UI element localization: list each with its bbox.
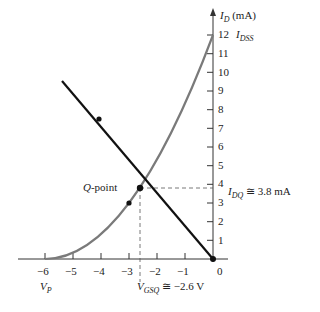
- y-tick-8: 8: [218, 104, 224, 115]
- idss-label: IDSS: [236, 29, 253, 43]
- qpoint-label: Q-point: [83, 182, 117, 193]
- y-tick-5: 5: [218, 160, 224, 171]
- y-tick-2: 2: [218, 216, 224, 227]
- y-tick-7: 7: [218, 123, 224, 134]
- vp-label: VP: [40, 281, 52, 295]
- idq-label: IDQ ≅ 3.8 mA: [228, 186, 291, 200]
- x-tick-neg1: −1: [177, 266, 189, 277]
- origin-marker: [210, 256, 216, 262]
- x-tick-neg2: −2: [149, 266, 161, 277]
- qpoint-marker: [137, 185, 143, 191]
- y-tick-9: 9: [218, 85, 224, 96]
- x-tick-neg6: −6: [37, 266, 49, 277]
- x-tick-0: 0: [217, 266, 223, 277]
- bias-point-marker: [96, 116, 101, 121]
- y-axis-title: ID (mA): [220, 10, 256, 24]
- y-tick-3: 3: [218, 197, 224, 208]
- vgsq-label: VGSQ ≅ −2.6 V: [137, 281, 204, 295]
- x-tick-neg4: −4: [93, 266, 105, 277]
- y-tick-11: 11: [218, 48, 229, 59]
- y-tick-12: 12: [218, 29, 229, 40]
- y-tick-1: 1: [218, 235, 224, 246]
- y-axis-arrow-icon: [210, 8, 216, 16]
- y-ticks: [207, 35, 213, 240]
- x-tick-neg3: −3: [121, 266, 133, 277]
- curve-point-marker: [126, 200, 131, 205]
- y-tick-6: 6: [218, 141, 224, 152]
- y-tick-10: 10: [218, 67, 229, 78]
- x-tick-neg5: −5: [65, 266, 77, 277]
- y-tick-4: 4: [218, 178, 224, 189]
- transfer-curve: [45, 35, 213, 259]
- bias-line: [62, 81, 213, 259]
